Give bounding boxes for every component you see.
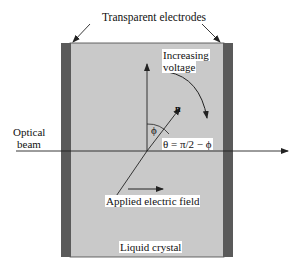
director-n-label: n — [175, 103, 181, 115]
optical-beam-label-line1: Optical — [13, 126, 45, 138]
increasing-voltage-label-line2: voltage — [162, 61, 196, 73]
applied-electric-field-label: Applied electric field — [105, 195, 200, 207]
right-electrode-pointer-arrow — [202, 24, 220, 42]
optical-beam-label-line2: beam — [17, 138, 41, 150]
transparent-electrodes-label: Transparent electrodes — [102, 11, 206, 23]
increasing-voltage-label-line1: Increasing — [162, 49, 210, 61]
left-electrode-pointer-arrow — [73, 24, 90, 42]
theta-relation-label: θ = π/2 − ϕ — [162, 138, 213, 150]
liquid-crystal-label: Liquid crystal — [119, 241, 182, 253]
right-electrode — [223, 43, 233, 257]
left-electrode — [61, 43, 71, 257]
phi-label: ϕ — [151, 124, 157, 136]
